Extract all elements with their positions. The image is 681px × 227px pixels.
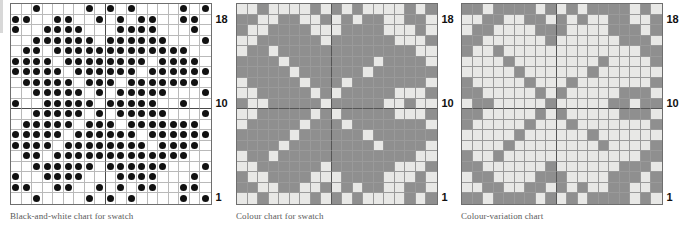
chart-cell[interactable] xyxy=(578,151,589,162)
chart-cell[interactable] xyxy=(374,120,385,131)
chart-cell[interactable] xyxy=(300,193,311,204)
chart-cell[interactable] xyxy=(290,109,301,120)
chart-cell[interactable] xyxy=(200,141,211,152)
chart-cell[interactable] xyxy=(190,15,201,26)
chart-cell[interactable] xyxy=(148,78,159,89)
chart-cell[interactable] xyxy=(416,109,427,120)
chart-cell[interactable] xyxy=(311,183,322,194)
chart-cell[interactable] xyxy=(342,162,353,173)
chart-cell[interactable] xyxy=(43,25,54,36)
chart-cell[interactable] xyxy=(609,130,620,141)
chart-cell[interactable] xyxy=(620,36,631,47)
chart-cell[interactable] xyxy=(536,46,547,57)
chart-cell[interactable] xyxy=(95,4,106,15)
chart-cell[interactable] xyxy=(95,88,106,99)
chart-cell[interactable] xyxy=(353,57,364,68)
chart-cell[interactable] xyxy=(179,120,190,131)
chart-cell[interactable] xyxy=(85,57,96,68)
chart-cell[interactable] xyxy=(405,67,416,78)
chart-cell[interactable] xyxy=(53,120,64,131)
chart-cell[interactable] xyxy=(85,183,96,194)
chart-cell[interactable] xyxy=(546,193,557,204)
chart-cell[interactable] xyxy=(515,141,526,152)
chart-cell[interactable] xyxy=(32,120,43,131)
chart-cell[interactable] xyxy=(557,193,568,204)
chart-cell[interactable] xyxy=(525,99,536,110)
chart-cell[interactable] xyxy=(473,4,484,15)
chart-cell[interactable] xyxy=(483,172,494,183)
chart-cell[interactable] xyxy=(599,78,610,89)
chart-cell[interactable] xyxy=(311,141,322,152)
chart-cell[interactable] xyxy=(363,67,374,78)
chart-cell[interactable] xyxy=(258,151,269,162)
chart-cell[interactable] xyxy=(43,130,54,141)
chart-cell[interactable] xyxy=(525,183,536,194)
chart-cell[interactable] xyxy=(536,67,547,78)
chart-cell[interactable] xyxy=(342,15,353,26)
chart-cell[interactable] xyxy=(258,46,269,57)
chart-cell[interactable] xyxy=(85,109,96,120)
chart-cell[interactable] xyxy=(137,88,148,99)
chart-cell[interactable] xyxy=(546,183,557,194)
chart-cell[interactable] xyxy=(95,151,106,162)
chart-cell[interactable] xyxy=(290,15,301,26)
chart-cell[interactable] xyxy=(300,151,311,162)
chart-cell[interactable] xyxy=(22,25,33,36)
chart-cell[interactable] xyxy=(546,141,557,152)
chart-cell[interactable] xyxy=(321,99,332,110)
chart-cell[interactable] xyxy=(342,88,353,99)
chart-cell[interactable] xyxy=(258,162,269,173)
chart-cell[interactable] xyxy=(630,162,641,173)
chart-cell[interactable] xyxy=(342,67,353,78)
chart-cell[interactable] xyxy=(22,57,33,68)
chart-cell[interactable] xyxy=(536,172,547,183)
chart-cell[interactable] xyxy=(504,99,515,110)
chart-cell[interactable] xyxy=(74,151,85,162)
chart-cell[interactable] xyxy=(43,109,54,120)
chart-cell[interactable] xyxy=(426,88,437,99)
chart-cell[interactable] xyxy=(363,88,374,99)
chart-cell[interactable] xyxy=(321,25,332,36)
chart-cell[interactable] xyxy=(416,183,427,194)
chart-cell[interactable] xyxy=(300,57,311,68)
chart-cell[interactable] xyxy=(258,183,269,194)
chart-cell[interactable] xyxy=(536,4,547,15)
chart-cell[interactable] xyxy=(609,25,620,36)
chart-cell[interactable] xyxy=(237,109,248,120)
chart-cell[interactable] xyxy=(525,15,536,26)
chart-cell[interactable] xyxy=(384,130,395,141)
chart-cell[interactable] xyxy=(248,151,259,162)
chart-cell[interactable] xyxy=(311,15,322,26)
chart-cell[interactable] xyxy=(588,120,599,131)
chart-cell[interactable] xyxy=(363,99,374,110)
chart-cell[interactable] xyxy=(515,4,526,15)
chart-cell[interactable] xyxy=(179,36,190,47)
chart-cell[interactable] xyxy=(557,120,568,131)
chart-cell[interactable] xyxy=(363,4,374,15)
chart-cell[interactable] xyxy=(332,99,343,110)
chart-cell[interactable] xyxy=(106,141,117,152)
chart-cell[interactable] xyxy=(473,141,484,152)
chart-cell[interactable] xyxy=(536,130,547,141)
chart-cell[interactable] xyxy=(127,120,138,131)
chart-cell[interactable] xyxy=(311,67,322,78)
chart-cell[interactable] xyxy=(426,67,437,78)
chart-cell[interactable] xyxy=(279,109,290,120)
chart-cell[interactable] xyxy=(462,151,473,162)
chart-cell[interactable] xyxy=(116,99,127,110)
chart-cell[interactable] xyxy=(311,172,322,183)
chart-cell[interactable] xyxy=(279,130,290,141)
chart-cell[interactable] xyxy=(158,172,169,183)
chart-cell[interactable] xyxy=(137,151,148,162)
chart-cell[interactable] xyxy=(85,88,96,99)
chart-cell[interactable] xyxy=(483,120,494,131)
chart-cell[interactable] xyxy=(53,130,64,141)
chart-cell[interactable] xyxy=(630,109,641,120)
chart-cell[interactable] xyxy=(462,141,473,152)
chart-cell[interactable] xyxy=(321,15,332,26)
chart-cell[interactable] xyxy=(599,67,610,78)
chart-cell[interactable] xyxy=(74,46,85,57)
chart-cell[interactable] xyxy=(630,130,641,141)
chart-cell[interactable] xyxy=(374,109,385,120)
chart-cell[interactable] xyxy=(95,57,106,68)
